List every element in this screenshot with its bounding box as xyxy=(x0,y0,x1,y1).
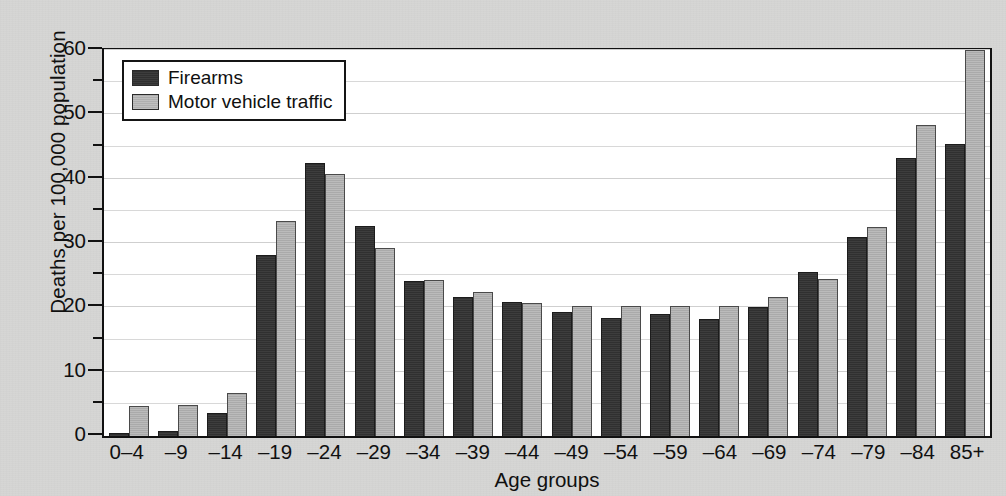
bar-firearms xyxy=(945,144,965,436)
y-axis-tick-mark-major xyxy=(88,111,102,113)
bar-group xyxy=(645,50,694,436)
y-axis-tick-mark-minor xyxy=(93,272,102,274)
x-axis-tick-label: –69 xyxy=(745,440,794,464)
x-axis-title: Age groups xyxy=(102,468,992,492)
legend-swatch-motor-vehicle-traffic xyxy=(132,94,159,110)
y-axis-tick-mark-minor xyxy=(93,208,102,210)
bar-motor-vehicle-traffic xyxy=(178,405,198,436)
legend-item-firearms: Firearms xyxy=(132,67,332,89)
y-axis-tick-mark-minor xyxy=(93,144,102,146)
bar-motor-vehicle-traffic xyxy=(227,393,247,436)
x-axis-tick-label: –14 xyxy=(201,440,250,464)
y-axis-tick-mark-minor xyxy=(93,337,102,339)
bar-group xyxy=(842,50,891,436)
bar-group xyxy=(498,50,547,436)
bar-group xyxy=(350,50,399,436)
bar-firearms xyxy=(699,319,719,436)
x-axis-tick-label: –24 xyxy=(300,440,349,464)
bar-firearms xyxy=(207,413,227,436)
bar-firearms xyxy=(256,255,276,436)
bar-group xyxy=(449,50,498,436)
bar-motor-vehicle-traffic xyxy=(818,279,838,436)
bar-firearms xyxy=(502,302,522,436)
y-axis-tick-mark-major xyxy=(88,304,102,306)
bar-motor-vehicle-traffic xyxy=(276,221,296,436)
x-axis-tick-label: –84 xyxy=(893,440,942,464)
plot-area: Firearms Motor vehicle traffic xyxy=(102,48,992,438)
bar-motor-vehicle-traffic xyxy=(867,227,887,436)
bar-firearms xyxy=(355,226,375,436)
bar-motor-vehicle-traffic xyxy=(572,306,592,436)
x-axis-tick-label: –79 xyxy=(844,440,893,464)
bar-group xyxy=(399,50,448,436)
x-axis-tick-labels: 0–4–9–14–19–24–29–34–39–44–49–54–59–64–6… xyxy=(102,440,992,464)
bar-group xyxy=(596,50,645,436)
bar-motor-vehicle-traffic xyxy=(670,306,690,436)
bar-group xyxy=(793,50,842,436)
bar-firearms xyxy=(847,237,867,436)
x-axis-tick-label: –39 xyxy=(448,440,497,464)
x-axis-tick-label: –19 xyxy=(250,440,299,464)
bar-firearms xyxy=(552,312,572,436)
bar-firearms xyxy=(109,433,129,436)
y-axis-tick-mark-major xyxy=(88,433,102,435)
legend-label-motor-vehicle-traffic: Motor vehicle traffic xyxy=(168,91,332,113)
bar-motor-vehicle-traffic xyxy=(522,303,542,436)
bar-firearms xyxy=(650,314,670,436)
bar-motor-vehicle-traffic xyxy=(375,248,395,436)
bar-group xyxy=(744,50,793,436)
bar-motor-vehicle-traffic xyxy=(621,306,641,436)
bar-group xyxy=(892,50,941,436)
bar-group xyxy=(941,50,990,436)
x-axis-tick-label: –54 xyxy=(596,440,645,464)
bar-motor-vehicle-traffic xyxy=(473,292,493,436)
y-axis-tick-mark-major xyxy=(88,47,102,49)
x-axis-tick-label: 0–4 xyxy=(102,440,151,464)
bar-firearms xyxy=(748,307,768,436)
figure-bar-chart: Deaths per 100,000 population 0102030405… xyxy=(0,0,1006,496)
bar-firearms xyxy=(404,281,424,436)
bar-motor-vehicle-traffic xyxy=(965,50,985,436)
bar-firearms xyxy=(798,272,818,436)
x-axis-tick-label: –59 xyxy=(646,440,695,464)
bar-firearms xyxy=(601,318,621,436)
x-axis-tick-label: –49 xyxy=(547,440,596,464)
bar-firearms xyxy=(158,431,178,436)
legend-swatch-firearms xyxy=(132,70,159,86)
bar-firearms xyxy=(896,158,916,436)
y-axis-tick-mark-major xyxy=(88,369,102,371)
bar-motor-vehicle-traffic xyxy=(424,280,444,436)
bar-motor-vehicle-traffic xyxy=(325,174,345,436)
x-axis-tick-label: –9 xyxy=(151,440,200,464)
y-axis-tick-mark-minor xyxy=(93,79,102,81)
bar-group xyxy=(547,50,596,436)
y-axis-tick-mark-major xyxy=(88,176,102,178)
bar-motor-vehicle-traffic xyxy=(719,306,739,436)
y-axis-tick-mark-minor xyxy=(93,401,102,403)
bar-motor-vehicle-traffic xyxy=(129,406,149,436)
bar-motor-vehicle-traffic xyxy=(916,125,936,436)
x-axis-tick-label: 85+ xyxy=(942,440,991,464)
legend-label-firearms: Firearms xyxy=(168,67,243,89)
legend: Firearms Motor vehicle traffic xyxy=(122,60,346,121)
bar-group xyxy=(695,50,744,436)
x-axis-tick-label: –74 xyxy=(794,440,843,464)
x-axis-tick-label: –44 xyxy=(498,440,547,464)
bar-firearms xyxy=(305,163,325,436)
bar-firearms xyxy=(453,297,473,436)
legend-item-motor-vehicle-traffic: Motor vehicle traffic xyxy=(132,91,332,113)
bar-motor-vehicle-traffic xyxy=(768,297,788,436)
x-axis-tick-label: –34 xyxy=(399,440,448,464)
y-axis-tick-mark-major xyxy=(88,240,102,242)
x-axis-tick-label: –29 xyxy=(349,440,398,464)
x-axis-tick-label: –64 xyxy=(695,440,744,464)
